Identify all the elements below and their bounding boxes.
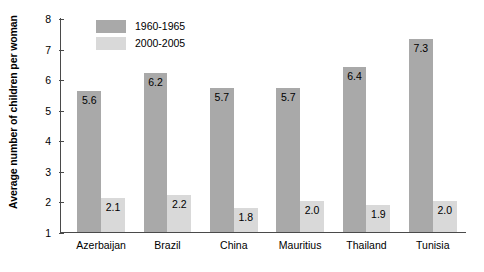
bar-china-2000-2005: 1.8 [234,208,258,232]
y-tick-mark [59,50,64,51]
y-tick-mark [59,141,64,142]
y-tick-mark [59,111,64,112]
legend-item-2000-2005: 2000-2005 [96,36,185,50]
category-label-brazil: Brazil [134,239,200,251]
y-tick-mark [59,233,64,234]
y-tick-mark [59,80,64,81]
y-tick-mark [59,202,64,203]
bar-azerbaijan-1960-1965: 5.6 [77,91,101,232]
bar-value-label: 2.0 [433,204,457,216]
category-label-azerbaijan: Azerbaijan [68,239,134,251]
y-tick-label: 5 [45,105,51,117]
y-tick-mark [59,19,64,20]
bar-thailand-1960-1965: 6.4 [343,67,367,232]
y-axis-title: Average number of children per woman [0,0,26,248]
legend: 1960-19652000-2005 [96,19,185,50]
bar-group-azerbaijan: 5.62.1 [77,18,125,232]
legend-label: 1960-1965 [135,20,185,32]
bar-tunisia-1960-1965: 7.3 [409,39,433,232]
y-tick-label: 1 [45,227,51,239]
bar-group-china: 5.71.8 [210,18,258,232]
bar-value-label: 5.7 [210,91,234,103]
y-tick-label: 4 [45,135,51,147]
category-label-thailand: Thailand [333,239,399,251]
bar-tunisia-2000-2005: 2.0 [433,201,457,232]
y-tick-mark [59,172,64,173]
y-tick-label: 3 [45,166,51,178]
bar-value-label: 6.2 [144,76,168,88]
bar-value-label: 1.8 [234,211,258,223]
y-tick-label: 7 [45,44,51,56]
legend-swatch [96,37,126,50]
category-label-mauritius: Mauritius [267,239,333,251]
bar-china-1960-1965: 5.7 [210,88,234,232]
bar-group-brazil: 6.22.2 [144,18,192,232]
bar-group-thailand: 6.41.9 [343,18,391,232]
bar-thailand-2000-2005: 1.9 [366,205,390,233]
bar-group-tunisia: 7.32.0 [409,18,457,232]
y-tick-label: 2 [45,196,51,208]
bar-value-label: 5.7 [276,91,300,103]
bar-value-label: 1.9 [366,208,390,220]
bar-value-label: 5.6 [77,94,101,106]
category-label-china: China [201,239,267,251]
bar-azerbaijan-2000-2005: 2.1 [101,198,125,232]
plot-area: 12345678 5.62.16.22.25.71.85.72.06.41.97… [60,18,466,233]
bar-mauritius-2000-2005: 2.0 [300,201,324,232]
legend-item-1960-1965: 1960-1965 [96,19,185,33]
bar-brazil-2000-2005: 2.2 [167,195,191,232]
y-tick-label: 8 [45,13,51,25]
category-label-tunisia: Tunisia [400,239,466,251]
bar-value-label: 2.2 [167,198,191,210]
bar-value-label: 6.4 [343,70,367,82]
bar-value-label: 7.3 [409,42,433,54]
legend-label: 2000-2005 [135,37,185,49]
bar-brazil-1960-1965: 6.2 [144,73,168,232]
bar-value-label: 2.1 [101,201,125,213]
bar-mauritius-1960-1965: 5.7 [276,88,300,232]
y-tick-label: 6 [45,74,51,86]
bar-group-mauritius: 5.72.0 [276,18,324,232]
legend-swatch [96,20,126,33]
bar-chart: Average number of children per woman 123… [0,0,484,272]
bar-value-label: 2.0 [300,204,324,216]
x-axis-line [60,232,466,233]
